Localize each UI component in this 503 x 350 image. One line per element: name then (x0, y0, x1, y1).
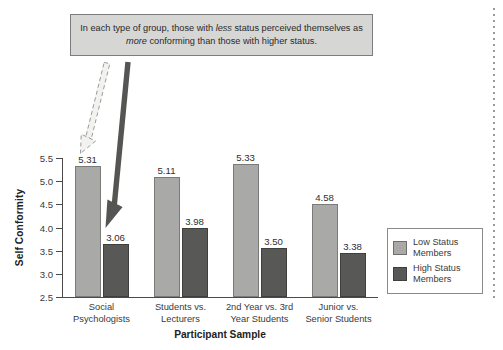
x-axis-category-label: Students vs.Lecturers (141, 301, 220, 325)
y-axis-tick-label: 3.5 (40, 245, 53, 256)
y-axis-tick-label: 5.0 (40, 176, 53, 187)
bar-value-label: 5.31 (78, 154, 97, 165)
y-axis-tick-label: 2.5 (40, 292, 53, 303)
page-margin-dots (493, 8, 495, 298)
callout-segment: In each type of group, those with (80, 23, 215, 33)
bar-value-label: 4.58 (315, 192, 334, 203)
y-axis-tick-label: 4.5 (40, 199, 53, 210)
legend: Low Status Members High Status Members (387, 228, 483, 294)
legend-label-line: High Status (413, 263, 461, 273)
legend-label-line: Low Status (413, 237, 458, 247)
category-label-line: Lecturers (141, 313, 220, 325)
legend-label-line: Members (413, 274, 451, 284)
callout-emphasis-more: more (126, 36, 147, 46)
x-axis-category-label: Junior vs.Senior Students (299, 301, 378, 325)
bar-value-label: 5.33 (236, 152, 255, 163)
category-label-line: Senior Students (299, 313, 378, 325)
category-label-line: Psychologists (62, 313, 141, 325)
legend-swatch-icon-high (393, 267, 407, 281)
legend-label-line: Members (413, 248, 451, 258)
y-axis-tick (56, 204, 62, 205)
chart-figure: In each type of group, those with less s… (0, 0, 503, 350)
dashed-arrow-to-low-status-bar (81, 62, 110, 153)
bar-high-status: 3.98 (182, 228, 208, 298)
legend-swatch-icon-low (393, 241, 407, 255)
bar-low-status: 5.33 (233, 164, 259, 297)
callout-emphasis-less: less (216, 23, 232, 33)
bar-value-label: 5.11 (158, 165, 176, 176)
bar-value-label: 3.98 (185, 216, 204, 227)
legend-item-low-status: Low Status Members (393, 235, 477, 261)
y-axis-line (62, 158, 63, 297)
callout-segment: conforming than those with higher status… (147, 36, 317, 46)
callout-box: In each type of group, those with less s… (70, 14, 373, 56)
bar-value-label: 3.38 (343, 241, 362, 252)
bar-low-status: 5.31 (75, 166, 101, 297)
plot-area: 2.53.03.54.04.55.05.5 5.313.065.113.985.… (62, 158, 378, 297)
y-axis-tick-label: 5.5 (40, 153, 53, 164)
callout-segment: status perceived (232, 23, 301, 33)
bar-low-status: 5.11 (154, 177, 180, 297)
legend-label-low: Low Status Members (413, 237, 458, 260)
bar-value-label: 3.06 (106, 232, 125, 243)
legend-label-high: High Status Members (413, 263, 461, 286)
category-label-line: Social (62, 301, 141, 313)
bar-high-status: 3.06 (103, 244, 129, 297)
y-axis-tick (56, 274, 62, 275)
category-label-line: Junior vs. (299, 301, 378, 313)
y-axis-tick-label: 3.0 (40, 268, 53, 279)
bar-low-status: 4.58 (312, 204, 338, 297)
bar-high-status: 3.38 (340, 253, 366, 297)
y-axis-tick (56, 181, 62, 182)
y-axis-tick (56, 297, 62, 298)
category-label-line: Year Students (220, 313, 299, 325)
x-axis-line (62, 297, 378, 298)
y-axis-tick (56, 228, 62, 229)
y-axis-tick-label: 4.0 (40, 222, 53, 233)
y-axis-tick (56, 158, 62, 159)
callout-text: In each type of group, those with less s… (79, 22, 364, 49)
category-label-line: Students vs. (141, 301, 220, 313)
x-axis-category-label: SocialPsychologists (62, 301, 141, 325)
y-axis-tick (56, 251, 62, 252)
category-label-line: 2nd Year vs. 3rd (220, 301, 299, 313)
x-axis-category-label: 2nd Year vs. 3rdYear Students (220, 301, 299, 325)
callout-segment: themselves as (304, 23, 363, 33)
y-axis-title: Self Conformity (12, 158, 26, 297)
bar-high-status: 3.50 (261, 248, 287, 297)
legend-item-high-status: High Status Members (393, 261, 477, 287)
bar-value-label: 3.50 (264, 236, 283, 247)
x-axis-title: Participant Sample (62, 329, 378, 340)
